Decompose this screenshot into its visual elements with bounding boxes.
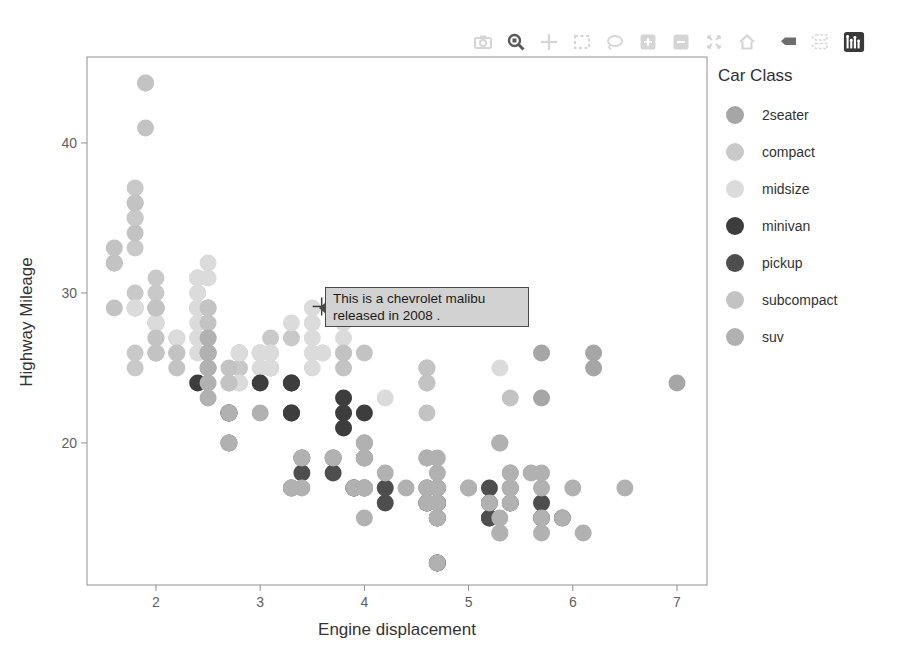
legend-label: compact (762, 144, 815, 160)
home-icon (737, 32, 757, 52)
autoscale-button[interactable] (703, 31, 725, 53)
legend-swatch-minivan (726, 217, 744, 235)
legend-label: 2seater (762, 107, 809, 123)
download-plot-button[interactable] (472, 31, 494, 53)
legend-swatch-suv (726, 328, 744, 346)
x-tick-label: 3 (256, 594, 264, 610)
plotly-logo-icon (843, 30, 865, 54)
legend-label: subcompact (762, 292, 837, 308)
legend-item-minivan[interactable]: minivan (716, 207, 896, 244)
zoom-in-button[interactable] (637, 31, 659, 53)
zoom-out-icon (671, 32, 691, 52)
y-tick-label: 40 (61, 135, 77, 151)
x-tick-label: 6 (569, 594, 577, 610)
legend-item-pickup[interactable]: pickup (716, 244, 896, 281)
zoom-button[interactable] (505, 31, 527, 53)
legend-swatch-compact (726, 143, 744, 161)
box-select-icon (572, 32, 592, 52)
legend-title: Car Class (718, 66, 896, 86)
legend-item-suv[interactable]: suv (716, 318, 896, 355)
legend-items: 2seatercompactmidsizeminivanpickupsubcom… (716, 96, 896, 355)
magnifier-icon (506, 32, 526, 52)
pan-icon (539, 32, 559, 52)
tooltip-line-2: released in 2008 . (333, 307, 521, 324)
legend-label: pickup (762, 255, 802, 271)
legend-label: minivan (762, 218, 810, 234)
x-tick-label: 2 (152, 594, 160, 610)
double-tag-icon (808, 32, 830, 52)
hover-compare-button[interactable] (808, 31, 830, 53)
legend: Car Class 2seatercompactmidsizeminivanpi… (716, 66, 896, 355)
legend-swatch-subcompact (726, 291, 744, 309)
reset-axes-button[interactable] (736, 31, 758, 53)
tooltip-pointer (319, 302, 326, 314)
hover-tooltip: This is a chevrolet malibu released in 2… (325, 287, 529, 327)
lasso-icon (605, 32, 625, 52)
legend-item-subcompact[interactable]: subcompact (716, 281, 896, 318)
legend-item-2seater[interactable]: 2seater (716, 96, 896, 133)
legend-item-midsize[interactable]: midsize (716, 170, 896, 207)
y-axis-title: Highway Mileage (17, 58, 37, 586)
tooltip-line-1: This is a chevrolet malibu (333, 290, 521, 307)
legend-swatch-pickup (726, 254, 744, 272)
camera-icon (473, 32, 493, 52)
box-select-button[interactable] (571, 31, 593, 53)
legend-label: midsize (762, 181, 809, 197)
x-tick-label: 7 (673, 594, 681, 610)
modebar (0, 31, 903, 57)
y-tick-label: 30 (61, 285, 77, 301)
pan-button[interactable] (538, 31, 560, 53)
legend-swatch-midsize (726, 180, 744, 198)
plotly-logo-button[interactable] (843, 31, 865, 53)
zoom-in-icon (638, 32, 658, 52)
legend-swatch-2seater (726, 106, 744, 124)
lasso-select-button[interactable] (604, 31, 626, 53)
autoscale-icon (704, 32, 724, 52)
plotly-figure: 234567203040 Engine displacement Highway… (0, 0, 903, 665)
x-tick-label: 4 (360, 594, 368, 610)
tag-icon (778, 32, 800, 52)
legend-item-compact[interactable]: compact (716, 133, 896, 170)
zoom-out-button[interactable] (670, 31, 692, 53)
y-tick-label: 20 (61, 435, 77, 451)
legend-label: suv (762, 329, 784, 345)
x-axis-title: Engine displacement (87, 620, 707, 640)
x-tick-label: 5 (465, 594, 473, 610)
hover-closest-button[interactable] (778, 31, 800, 53)
